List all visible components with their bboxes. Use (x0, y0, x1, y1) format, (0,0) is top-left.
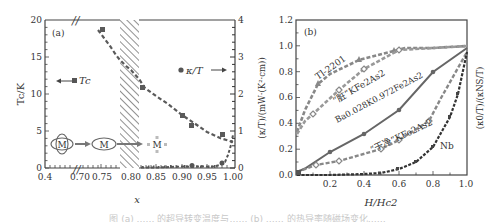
y-ticks-b (296, 33, 300, 175)
panel-label-a: (a) (52, 28, 64, 38)
svg-text:0.8: 0.8 (279, 67, 294, 77)
x-tick-labels-b: 0.2 0.4 0.6 0.8 1.0 (323, 179, 474, 189)
m-schematic: M M M (51, 134, 167, 154)
circle-marker-icon (178, 67, 183, 72)
svg-text:0.85: 0.85 (146, 172, 166, 182)
svg-text:Tc: Tc (79, 75, 91, 86)
svg-text:4: 4 (238, 15, 244, 25)
y-axis-label-a: Tc/K (15, 82, 26, 105)
svg-text:1: 1 (238, 126, 244, 136)
x-tick-labels-a: 0.4 0.70 0.75 0.80 0.85 0.90 0.95 1.00 (38, 172, 243, 182)
hatched-region (120, 20, 139, 168)
m-label-3: M (152, 140, 161, 150)
m-label-2: M (99, 140, 108, 150)
svg-text:1.2: 1.2 (279, 15, 293, 25)
x-axis-label-a: x (134, 194, 140, 205)
svg-text:0.90: 0.90 (172, 172, 192, 182)
svg-text:0.2: 0.2 (323, 179, 337, 189)
y-tick-labels-right: 0 1 2 3 4 (238, 15, 244, 173)
arrow-right-icon (85, 141, 91, 147)
m-label-1: M (57, 140, 66, 150)
kappa-legend: κ/T (178, 65, 227, 76)
y-tick-labels-b: 0.0 0.2 0.4 0.6 0.8 1.0 1.2 (279, 15, 294, 180)
svg-text:κ/T: κ/T (185, 65, 204, 76)
axis-break-top: // (71, 14, 81, 27)
svg-text:0.4: 0.4 (357, 179, 372, 189)
svg-text:15: 15 (31, 52, 43, 62)
tc-legend: Tc (56, 75, 91, 86)
svg-text:0.6: 0.6 (279, 92, 294, 102)
tc-markers (100, 27, 225, 137)
tc-fit-curve (98, 30, 233, 142)
svg-text:0.70: 0.70 (70, 172, 90, 182)
y-axis-label-b-right: (κ0/T)/(κNS/T) (475, 67, 485, 130)
svg-text:0.8: 0.8 (426, 179, 441, 189)
svg-text:10: 10 (31, 89, 43, 99)
panel-label-b: (b) (304, 27, 317, 37)
svg-text:0.4: 0.4 (279, 118, 294, 128)
figure-caption: 图 (a) …… 的超导转变温度与…… (b) …… 的热导率随磁场变化…… (0, 212, 495, 222)
svg-text:1.0: 1.0 (459, 179, 474, 189)
x-axis-label-b: H/Hc2 (364, 197, 398, 208)
label-tl2201: Tl-2201 (313, 53, 347, 81)
svg-text:0.0: 0.0 (279, 170, 294, 180)
svg-text:1.00: 1.00 (223, 172, 243, 182)
svg-text:1.0: 1.0 (279, 41, 294, 51)
svg-text:20: 20 (31, 15, 43, 25)
svg-text:0.95: 0.95 (197, 172, 217, 182)
origin-marker (296, 170, 301, 175)
panel-a: // // 0 5 10 15 20 0 1 2 3 4 0.4 0.70 0.… (15, 14, 244, 205)
y-tick-labels-left: 0 5 10 15 20 (31, 15, 43, 173)
svg-text:2: 2 (238, 89, 244, 99)
svg-text:0.2: 0.2 (279, 144, 293, 154)
svg-text:0.75: 0.75 (92, 172, 112, 182)
y-axis-label-b: (κ/T)/(mW·(K²·cm)) (257, 57, 267, 138)
svg-text:0.4: 0.4 (38, 172, 53, 182)
svg-text:0.80: 0.80 (121, 172, 141, 182)
svg-text:5: 5 (36, 126, 42, 136)
label-nb: Nb (440, 141, 454, 151)
label-clean: “干净”KFe2As2 (368, 116, 434, 155)
svg-text:3: 3 (238, 52, 244, 62)
figure-canvas: // // 0 5 10 15 20 0 1 2 3 4 0.4 0.70 0.… (0, 0, 495, 222)
arrow-right-icon (137, 141, 143, 147)
svg-text:0.6: 0.6 (392, 179, 407, 189)
panel-b: 0.0 0.2 0.4 0.6 0.8 1.0 1.2 0.2 0.4 0.6 … (257, 15, 485, 208)
